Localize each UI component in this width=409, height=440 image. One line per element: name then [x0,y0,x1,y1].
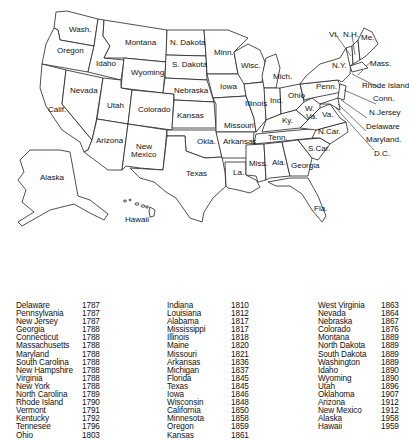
state-michigan [262,54,280,88]
label-wash: Wash. [69,25,91,34]
label-wisc: Wisc. [241,61,261,70]
label-hawaii: Hawaii [125,215,149,224]
label-oregon: Oregon [57,46,84,55]
table-row: Hawaii1959 [318,423,399,431]
label-minn: Minn. [214,48,234,57]
label-ky: Ky. [282,116,293,125]
label-arkansas: Arkansas [223,137,256,146]
label-georgia: Georgia [291,161,320,170]
label-montana: Montana [125,38,157,47]
label-illinois: Illinois [245,99,267,108]
label-nebraska: Nebraska [174,86,209,95]
label-maryland: Maryland. [366,135,401,144]
label-kansas: Kansas [177,111,204,120]
label-fla: Fla. [314,204,327,213]
label-la: La. [233,168,244,177]
label-dc: D.C. [374,149,390,158]
label-alaska: Alaska [40,173,65,182]
label-s-dakota: S. Dakota [172,60,208,69]
table-row: Ohio1803 [16,432,100,440]
label-tenn: Tenn. [268,133,288,142]
label-ohio: Ohio [288,91,305,100]
label-miss: Miss. [249,159,268,168]
label-w-va-line2: Va. [306,112,317,121]
admission-column-1: Delaware1787 Pennsylvania1787 New Jersey… [16,302,100,440]
table-row: Kansas1861 [167,432,249,440]
label-n-jersey: N.Jersey [369,108,401,117]
label-n-dakota: N. Dakota [170,38,206,47]
label-nh: N.H. [343,30,359,39]
label-arizona: Arizona [96,136,124,145]
label-rhode-island: Rhode Island [362,81,409,90]
label-delaware: Delaware [366,122,400,131]
label-ny: N.Y. [332,61,347,70]
us-map: Wash. Oregon Calif. Idaho Nevada Montana… [0,0,409,300]
label-va: Va. [322,110,333,119]
label-conn: Conn. [373,94,394,103]
label-idaho: Idaho [96,59,117,68]
label-s-car: S.Car. [308,144,330,153]
label-new-mexico-line2: Mexico [131,150,157,159]
label-mass: Mass. [370,59,391,68]
label-mich: Mich. [273,72,292,81]
label-utah: Utah [107,101,124,110]
label-n-car: N.Car. [318,127,341,136]
label-vt: Vt. [329,30,339,39]
label-nevada: Nevada [70,86,98,95]
label-okla: Okla. [197,137,216,146]
label-colorado: Colorado [138,105,171,114]
label-wyoming: Wyoming [131,68,164,77]
label-me: Me. [361,33,374,42]
label-texas: Texas [186,169,207,178]
state-alaska [18,150,108,226]
label-iowa: Iowa [220,82,237,91]
label-ala: Ala. [272,158,286,167]
label-missouri: Missouri [224,121,254,130]
admission-column-2: Indiana1810 Louisiana1812 Alabama1817 Mi… [167,302,249,440]
label-calif: Calif. [48,105,66,114]
label-ind: Ind. [270,96,283,105]
label-penn: Penn. [316,82,337,91]
admission-column-3: West Virginia1863 Nevada1864 Nebraska186… [318,302,399,432]
state-florida [268,178,326,222]
